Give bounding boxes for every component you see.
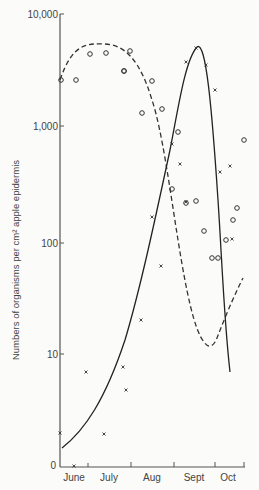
y-ticks: 10,000 1,000 100 10 0	[27, 9, 64, 471]
x-tick-june: June	[63, 472, 85, 483]
y-tick-0: 0	[50, 460, 56, 471]
y-tick-10: 10	[47, 349, 59, 360]
x-tick-july: July	[100, 472, 118, 483]
solid-fit-curve	[62, 47, 230, 448]
chart-container: Numbers of organisms per cm² apple epide…	[0, 0, 259, 490]
y-tick-10000: 10,000	[27, 9, 58, 20]
y-axis-label: Numbers of organisms per cm² apple epide…	[10, 160, 21, 360]
y-tick-100: 100	[41, 238, 58, 249]
x-ticks: June July Aug Sept Oct	[63, 462, 244, 483]
chart-svg: Numbers of organisms per cm² apple epide…	[0, 0, 259, 490]
x-tick-sept: Sept	[184, 472, 205, 483]
x-tick-oct: Oct	[220, 472, 236, 483]
y-tick-1000: 1,000	[33, 121, 58, 132]
x-tick-aug: Aug	[143, 472, 161, 483]
